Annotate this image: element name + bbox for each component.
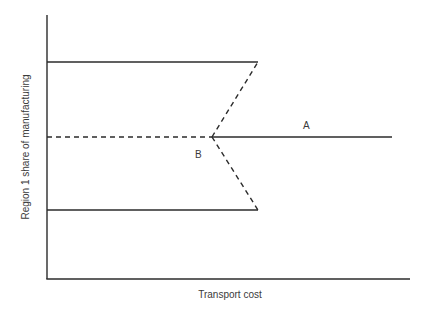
point-label-b: B (195, 149, 202, 160)
point-label-a: A (303, 120, 310, 131)
x-axis-title: Transport cost (198, 289, 262, 300)
diagram-canvas: A B Transport cost Region 1 share of man… (0, 0, 431, 309)
lower-unstable-branch (212, 137, 258, 210)
y-axis-title: Region 1 share of manufacturing (20, 74, 31, 219)
bifurcation-diagram: A B Transport cost Region 1 share of man… (0, 0, 431, 309)
upper-unstable-branch (212, 62, 258, 137)
